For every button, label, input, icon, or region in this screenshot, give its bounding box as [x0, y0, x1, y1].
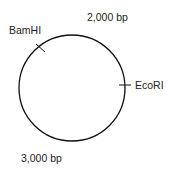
plasmid-diagram: BamHI EcoRI 2,000 bp 3,000 bp — [0, 0, 173, 175]
position-3000-label: 3,000 bp — [21, 152, 62, 164]
position-2000-label: 2,000 bp — [87, 11, 128, 23]
plasmid-circle — [19, 35, 125, 141]
ecori-label: EcoRI — [135, 79, 164, 91]
bamhi-label: BamHI — [9, 24, 41, 36]
